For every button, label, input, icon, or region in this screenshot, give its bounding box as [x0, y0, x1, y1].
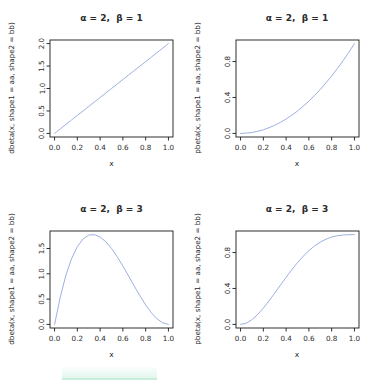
- data-curve: [55, 44, 169, 134]
- y-tick-label: 1.5: [38, 242, 47, 253]
- x-tick-label: 0.0: [49, 334, 61, 343]
- y-tick-label: 1.5: [38, 60, 47, 71]
- x-tick-label: 0.4: [94, 334, 106, 343]
- x-tick-label: 0.4: [94, 143, 106, 152]
- x-tick-label: 0.6: [117, 334, 129, 343]
- x-tick-label: 1.0: [163, 334, 175, 343]
- y-tick-label: 1.0: [38, 267, 47, 279]
- x-tick-label: 0.8: [140, 334, 152, 343]
- y-tick-label: 0.4: [223, 91, 232, 103]
- x-tick-label: 0.6: [303, 143, 315, 152]
- x-tick-label: 0.2: [257, 143, 268, 152]
- x-tick-label: 0.0: [234, 334, 246, 343]
- x-tick-label: 0.2: [257, 334, 268, 343]
- x-tick-label: 1.0: [348, 143, 360, 152]
- y-tick-label: 2.0: [38, 37, 47, 49]
- plot-canvas-dbeta-beta1: 0.00.20.40.60.81.00.00.51.01.52.0: [0, 0, 186, 191]
- y-tick-label: 0.8: [223, 246, 232, 258]
- x-tick-label: 1.0: [348, 334, 360, 343]
- x-tick-label: 1.0: [163, 143, 175, 152]
- plot-canvas-pbeta-beta1: 0.00.20.40.60.81.00.00.40.8: [186, 0, 371, 191]
- y-tick-label: 0.0: [38, 318, 47, 330]
- x-tick-label: 0.8: [140, 143, 152, 152]
- x-tick-label: 0.0: [234, 143, 246, 152]
- x-tick-label: 0.2: [72, 143, 83, 152]
- plot-canvas-pbeta-beta3: 0.00.20.40.60.81.00.00.40.8: [186, 191, 371, 381]
- y-tick-label: 0.8: [223, 55, 232, 67]
- y-tick-label: 0.0: [223, 127, 232, 139]
- plot-grid: α = 2, β = 1 dbeta(x, shape1 = aa, shape…: [0, 0, 371, 381]
- y-tick-label: 1.0: [38, 82, 47, 94]
- data-curve: [240, 44, 354, 134]
- x-tick-label: 0.4: [280, 143, 292, 152]
- x-tick-label: 0.6: [117, 143, 129, 152]
- x-tick-label: 0.8: [325, 143, 337, 152]
- x-tick-label: 0.2: [72, 334, 83, 343]
- y-tick-label: 0.5: [38, 293, 47, 304]
- plot-box: [50, 231, 173, 328]
- data-curve: [55, 234, 169, 324]
- plot-panel-dbeta-beta1: α = 2, β = 1 dbeta(x, shape1 = aa, shape…: [0, 0, 186, 191]
- plot-panel-dbeta-beta3: α = 2, β = 3 dbeta(x, shape1 = aa, shape…: [0, 191, 186, 381]
- data-curve: [240, 234, 354, 324]
- plot-panel-pbeta-beta3: α = 2, β = 3 pbeta(x, shape1 = aa, shape…: [186, 191, 371, 381]
- plot-box: [236, 231, 359, 328]
- x-tick-label: 0.0: [49, 143, 61, 152]
- x-tick-label: 0.6: [303, 334, 315, 343]
- plot-box: [236, 40, 359, 137]
- x-tick-label: 0.8: [325, 334, 337, 343]
- y-tick-label: 0.0: [223, 318, 232, 330]
- plot-canvas-dbeta-beta3: 0.00.20.40.60.81.00.00.51.01.5: [0, 191, 186, 381]
- plot-panel-pbeta-beta1: α = 2, β = 1 pbeta(x, shape1 = aa, shape…: [186, 0, 371, 191]
- y-tick-label: 0.0: [38, 127, 47, 139]
- y-tick-label: 0.4: [223, 282, 232, 294]
- x-tick-label: 0.4: [280, 334, 292, 343]
- y-tick-label: 0.5: [38, 105, 47, 116]
